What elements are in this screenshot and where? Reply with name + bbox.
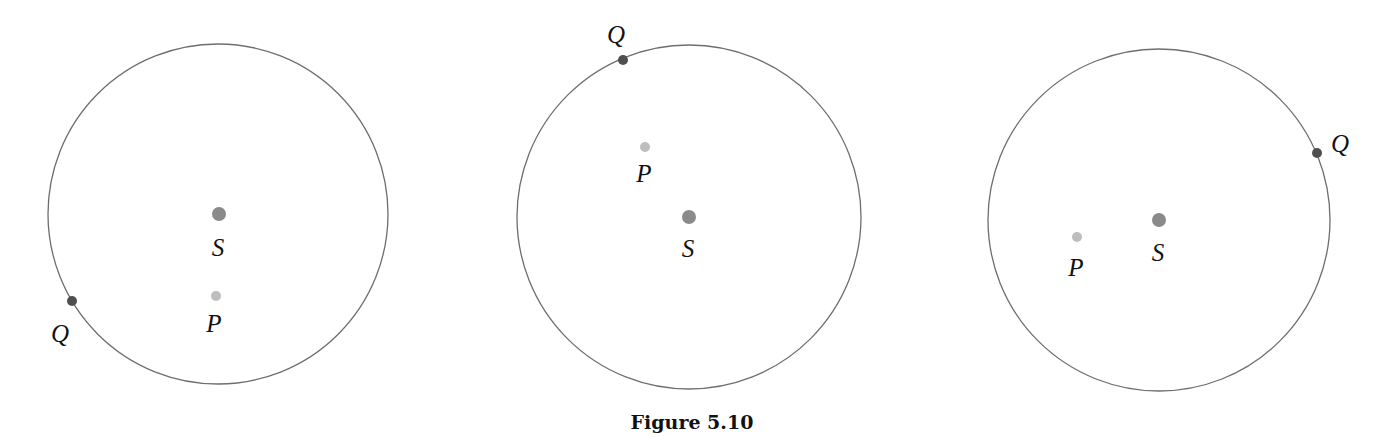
p-point-label: P: [635, 160, 651, 187]
figure-5-10: SPQSPQSPQ Figure 5.10: [0, 0, 1384, 437]
sun-point: [682, 210, 696, 224]
sun-point-label: S: [1152, 239, 1165, 266]
sun-point-label: S: [212, 234, 225, 261]
p-point-label: P: [205, 310, 221, 337]
q-point-label: Q: [51, 320, 69, 347]
panels: SPQSPQSPQ: [48, 21, 1349, 391]
q-point-label: Q: [607, 21, 625, 48]
sun-point-label: S: [682, 235, 695, 262]
p-point-label: P: [1067, 254, 1083, 281]
orbit-panel-2: SPQ: [517, 21, 861, 389]
p-point: [640, 142, 650, 152]
orbit-panel-3: SPQ: [988, 49, 1349, 391]
q-point: [1312, 148, 1322, 158]
q-point: [67, 296, 77, 306]
sun-point: [212, 207, 226, 221]
q-point-label: Q: [1331, 130, 1349, 157]
orbit-panel-1: SPQ: [48, 44, 388, 384]
sun-point: [1152, 213, 1166, 227]
p-point: [211, 291, 221, 301]
figure-caption: Figure 5.10: [631, 411, 754, 433]
q-point: [618, 55, 628, 65]
p-point: [1072, 232, 1082, 242]
